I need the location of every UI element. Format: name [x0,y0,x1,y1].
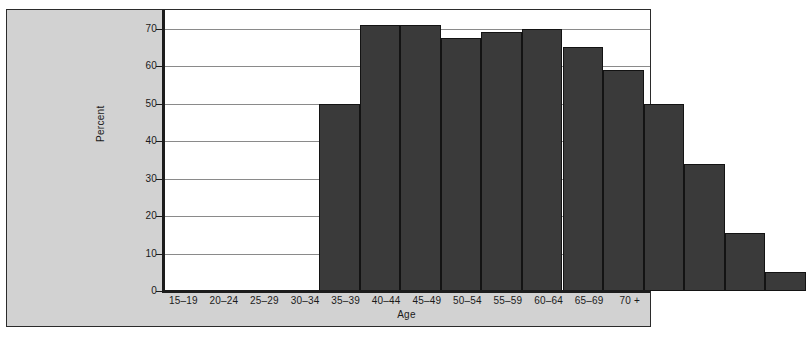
x-tick-label: 55–59 [488,295,529,307]
bar [603,70,644,291]
plot-area [163,10,650,291]
x-tick-label: 65–69 [569,295,610,307]
x-axis-title: Age [163,309,650,320]
y-tick-label-70: 70 [145,24,157,34]
bar [522,29,563,291]
bar [360,25,401,291]
y-tick-label-0: 0 [151,286,157,296]
y-tick-label-30: 30 [145,174,157,184]
bars-group [319,10,806,291]
x-tick-label: 45–49 [407,295,448,307]
bar [441,38,482,291]
y-tick-label-40: 40 [145,136,157,146]
x-tick-label: 20–24 [204,295,245,307]
x-tick-label: 40–44 [366,295,407,307]
y-tick-label-20: 20 [145,211,157,221]
x-tick-label: 15–19 [163,295,204,307]
x-tick-label: 25–29 [244,295,285,307]
y-axis-title: Percent [95,105,106,142]
y-tick-label-60: 60 [145,61,157,71]
bar [481,32,522,291]
x-tick-label: 30–34 [285,295,326,307]
x-tick-label: 60–64 [528,295,569,307]
y-tick-label-50: 50 [145,99,157,109]
y-axis-line [162,10,165,292]
bar [644,104,685,291]
bar [725,233,766,291]
x-tick-label: 35–39 [325,295,366,307]
x-axis-line [162,290,650,293]
bar [765,272,806,291]
x-tick-label: 50–54 [447,295,488,307]
chart-figure-panel: 010203040506070 Percent 15–1920–2425–293… [6,9,651,327]
y-tick-label-10: 10 [145,249,157,259]
y-axis-tick-labels: 010203040506070 [119,10,157,292]
bar [319,104,360,291]
x-tick-label: 70 + [609,295,650,307]
bar [563,47,604,291]
bar [400,25,441,291]
bar [684,164,725,291]
